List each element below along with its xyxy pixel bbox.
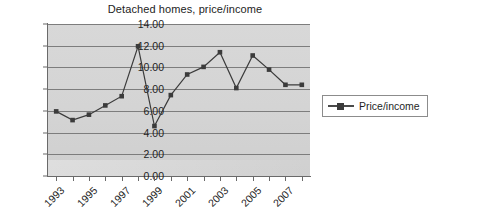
x-axis-tick-mark <box>56 176 57 181</box>
legend-entry-label: Price/income <box>359 100 420 112</box>
data-point-marker: 1999: 4.6 <box>152 124 157 129</box>
data-point-marker: 2000: 7.45 <box>169 93 174 98</box>
chart-title: Detached homes, price/income <box>50 3 320 15</box>
data-point-marker: 2007: 8.4 <box>283 83 288 88</box>
x-axis-tick-mark <box>236 176 237 181</box>
x-axis-tick-mark <box>269 176 270 181</box>
data-point-marker: 2005: 11.1 <box>250 53 255 58</box>
data-point-marker: 1993: 5.95 <box>54 109 59 114</box>
x-axis-tick-mark <box>138 176 139 181</box>
chart-container: Detached homes, price/income 0.002.004.0… <box>0 0 482 223</box>
x-axis-tick-mark <box>73 176 74 181</box>
data-point-marker: 2006: 9.8 <box>267 67 272 72</box>
data-point-marker: 2001: 9.35 <box>185 72 190 77</box>
x-axis-tick-mark <box>204 176 205 181</box>
x-axis-tick-mark <box>187 176 188 181</box>
x-axis-tick-mark <box>302 176 303 181</box>
x-axis-tick-mark <box>122 176 123 181</box>
x-axis-tick-mark <box>89 176 90 181</box>
data-point-marker: 2003: 11.4 <box>218 50 223 55</box>
data-series-layer: 1993: 5.951994: 5.151995: 5.651996: 6.51… <box>48 24 310 176</box>
data-point-marker: 1994: 5.15 <box>70 118 75 123</box>
data-point-marker: 1996: 6.5 <box>103 103 108 108</box>
data-point-marker: 2004: 8.1 <box>234 86 239 91</box>
x-axis-tick-mark <box>220 176 221 181</box>
data-point-marker: 1998: 11.95 <box>136 44 141 49</box>
chart-legend: Price/income <box>322 95 428 117</box>
data-point-marker: 2002: 10.05 <box>201 65 206 70</box>
x-axis-line <box>47 176 311 177</box>
series-line <box>56 46 302 126</box>
x-axis-tick-mark <box>171 176 172 181</box>
x-axis-tick-mark <box>154 176 155 181</box>
data-point-marker: 1997: 7.35 <box>119 94 124 99</box>
x-axis-tick-mark <box>105 176 106 181</box>
data-point-marker: 1995: 5.65 <box>87 112 92 117</box>
x-axis-tick-mark <box>285 176 286 181</box>
square-marker-icon <box>328 101 354 111</box>
data-point-marker: 2008: 8.4 <box>300 83 305 88</box>
x-axis-tick-mark <box>253 176 254 181</box>
